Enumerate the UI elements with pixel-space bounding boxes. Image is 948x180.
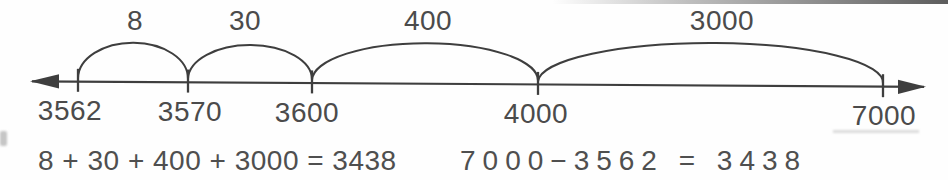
scanned-number-line-figure: 8 30 400 3000 3562 3570 3600 4000 7000 8… bbox=[0, 0, 948, 180]
jump-arc-8 bbox=[78, 43, 188, 79]
tick-label-3562: 3562 bbox=[38, 97, 102, 125]
tick-label-3570: 3570 bbox=[158, 98, 222, 126]
right-arrow-icon bbox=[898, 80, 926, 94]
jump-label-8: 8 bbox=[127, 7, 143, 35]
jump-arc-400 bbox=[312, 43, 538, 81]
jump-label-400: 400 bbox=[404, 7, 452, 35]
tick-label-4000: 4000 bbox=[504, 100, 568, 128]
tick-label-3600: 3600 bbox=[275, 99, 339, 127]
jump-label-30: 30 bbox=[229, 7, 261, 35]
equation-sum: 8 + 30 + 400 + 3000 = 3438 bbox=[38, 147, 397, 175]
tick-label-7000: 7000 bbox=[852, 102, 916, 130]
jump-arc-3000 bbox=[538, 43, 883, 84]
equation-difference: 7000−3562 = 3438 bbox=[460, 147, 807, 175]
number-line bbox=[32, 81, 924, 87]
jump-arc-30 bbox=[188, 45, 312, 80]
left-arrow-icon bbox=[30, 74, 59, 88]
jump-label-3000: 3000 bbox=[690, 7, 754, 35]
